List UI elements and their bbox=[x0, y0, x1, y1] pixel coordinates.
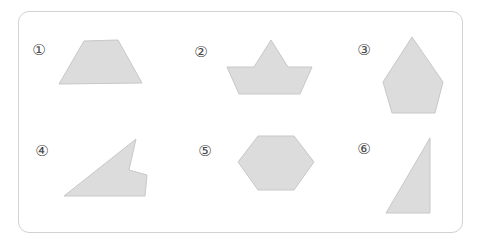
figure-marker-6: ⑥ bbox=[355, 140, 373, 158]
figure-4-concave-arrow-polygon bbox=[58, 134, 150, 200]
figure-1-trapezoid bbox=[56, 38, 146, 88]
figure-marker-2: ② bbox=[192, 43, 210, 61]
figure-marker-5: ⑤ bbox=[196, 142, 214, 160]
worksheet: ①②③④⑤⑥ bbox=[0, 0, 482, 247]
hexagon-polygon bbox=[238, 136, 314, 190]
right-triangle-polygon bbox=[386, 138, 430, 213]
figure-3-kite-pentagon bbox=[379, 34, 447, 116]
figure-5-hexagon bbox=[234, 132, 318, 194]
figure-marker-1: ① bbox=[30, 41, 48, 59]
figure-6-right-triangle bbox=[380, 133, 436, 217]
kite-pentagon-polygon bbox=[383, 37, 443, 113]
figure-marker-3: ③ bbox=[355, 41, 373, 59]
figure-marker-4: ④ bbox=[33, 142, 51, 160]
figure-2-boat-concave-hexagon bbox=[224, 36, 316, 98]
trapezoid-polygon bbox=[59, 40, 142, 84]
concave-arrow-polygon-polygon bbox=[64, 139, 147, 196]
shape-grid: ①②③④⑤⑥ bbox=[0, 0, 482, 247]
boat-concave-hexagon-polygon bbox=[227, 40, 312, 94]
